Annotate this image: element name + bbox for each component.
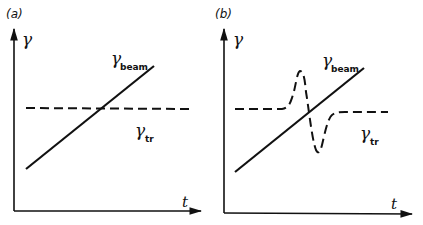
gamma-beam-line xyxy=(26,66,154,169)
panel-a: (a) γ t γ beam γ tr xyxy=(6,7,201,211)
diagram: (a) γ t γ beam γ tr (b) γ t γ beam γ tr xyxy=(0,0,423,225)
y-axis-label: γ xyxy=(233,29,244,49)
panel-b: (b) γ t γ beam γ tr xyxy=(215,7,412,214)
x-axis-label: t xyxy=(391,195,398,213)
x-axis xyxy=(224,213,412,214)
svg-text:tr: tr xyxy=(145,134,154,144)
gamma-beam-line xyxy=(235,68,364,172)
panel-b-label: (b) xyxy=(215,7,232,21)
panel-a-label: (a) xyxy=(6,7,23,21)
gamma-tr-line xyxy=(26,108,193,109)
gamma-tr-label: γ tr xyxy=(360,123,379,147)
svg-text:tr: tr xyxy=(370,137,379,147)
svg-text:beam: beam xyxy=(331,64,359,74)
svg-text:beam: beam xyxy=(120,62,148,72)
y-axis-label: γ xyxy=(22,29,33,49)
gamma-tr-label: γ tr xyxy=(135,120,154,144)
x-axis-label: t xyxy=(182,193,189,211)
gamma-beam-label: γ beam xyxy=(322,50,359,74)
gamma-beam-label: γ beam xyxy=(111,48,148,72)
